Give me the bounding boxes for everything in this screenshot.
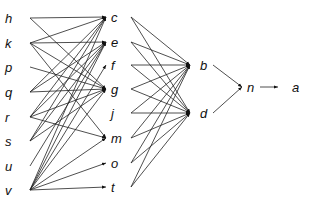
node-o-label: o [111,156,118,171]
node-s-label: s [5,134,12,149]
node-n-label: n [247,80,254,95]
edge-c-b [131,17,190,65]
node-v-label: v [5,183,13,198]
edge-v-f [30,65,106,190]
edge-e-d [131,42,190,113]
edge-h-c [30,17,106,18]
node-m-label: m [111,131,122,146]
node-k-label: k [5,36,13,51]
node-d-label: d [200,106,208,121]
node-e-label: e [111,35,118,50]
node-c-label: c [111,10,118,25]
edge-s-c [30,17,106,141]
edge-e-b [131,42,190,65]
labels-group: hkpqrsuvcefgjmotbdna [4,10,299,198]
edge-k-c [30,17,106,43]
node-q-label: q [5,85,13,100]
edge-v-t [30,187,106,190]
node-r-label: r [5,110,10,125]
node-j-label: j [109,106,115,121]
edge-v-e [30,42,106,190]
node-a-label: a [292,80,299,95]
edge-d-n [213,87,242,113]
node-g-label: g [111,82,119,97]
node-h-label: h [5,11,12,26]
edge-o-d [131,113,190,163]
edge-r-c [30,17,106,117]
edge-s-g [30,89,106,141]
edge-o-b [131,65,190,163]
edge-t-b [131,65,190,187]
node-p-label: p [4,60,12,75]
node-u-label: u [5,159,12,174]
node-f-label: f [111,58,116,73]
edges-group [30,17,278,190]
node-t-label: t [111,180,116,195]
node-b-label: b [200,58,207,73]
layered-graph-diagram: hkpqrsuvcefgjmotbdna [0,0,320,210]
edge-b-n [213,65,242,87]
edge-g-b [131,65,190,89]
edge-t-d [131,113,190,187]
edge-m-b [131,65,190,138]
